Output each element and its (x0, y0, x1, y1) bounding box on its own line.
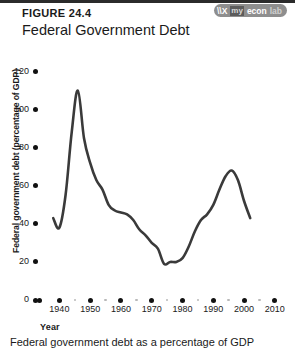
myeconlab-mark-icon: \\X (217, 6, 227, 16)
x-axis-title: Year (40, 322, 60, 332)
myeconlab-logo[interactable]: \\X my econ lab (214, 4, 287, 17)
chart-plot-area: Federal government debt (percentage of G… (0, 48, 295, 316)
logo-lab-text: lab (270, 6, 282, 16)
debt-line-path (53, 91, 250, 265)
figure-card: FIGURE 24.4 Federal Government Debt \\X … (0, 0, 295, 352)
logo-my-text: my (230, 6, 244, 16)
logo-econ-text: econ (247, 6, 267, 16)
debt-line-series (0, 48, 295, 316)
page-title: Federal Government Debt (22, 21, 277, 39)
figure-caption: Federal government debt as a percentage … (10, 336, 254, 348)
top-divider (0, 0, 295, 3)
